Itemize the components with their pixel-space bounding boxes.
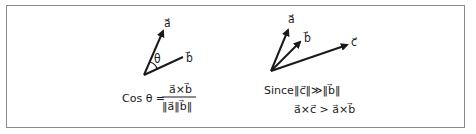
- vector-a-label: a⃗: [164, 16, 171, 30]
- formula-numerator: a⃗×b⃗: [169, 82, 192, 96]
- magnitude-comparison: Since ‖c⃗‖≫‖b⃗‖ a⃗×c⃗ > a⃗×b⃗: [264, 83, 355, 116]
- vector-c-arrow: [271, 45, 347, 71]
- vector-b-label: b⃗: [184, 51, 193, 65]
- vector-c-label: c⃗: [351, 35, 357, 49]
- vector-diagram: a⃗ b⃗ θ Cos θ = a⃗×b⃗ ‖a⃗‖b⃗‖ a⃗ b⃗ c⃗ S…: [0, 0, 476, 134]
- formula-denominator: ‖a⃗‖b⃗‖: [162, 99, 192, 113]
- vector-a-arrow: [271, 30, 288, 71]
- vector-b-label: b⃗: [302, 31, 311, 45]
- since-label: Since: [264, 84, 294, 97]
- left-vector-diagram: a⃗ b⃗ θ: [144, 16, 193, 75]
- formula-lhs: Cos θ =: [122, 92, 165, 105]
- theta-label: θ: [154, 52, 161, 66]
- cosine-formula: Cos θ = a⃗×b⃗ ‖a⃗‖b⃗‖: [122, 82, 196, 113]
- vector-a-label: a⃗: [288, 12, 295, 26]
- right-vector-diagram: a⃗ b⃗ c⃗: [271, 12, 357, 71]
- magnitude-condition: ‖c⃗‖≫‖b⃗‖: [294, 83, 341, 97]
- dot-product-conclusion: a⃗×c⃗ > a⃗×b⃗: [294, 102, 355, 116]
